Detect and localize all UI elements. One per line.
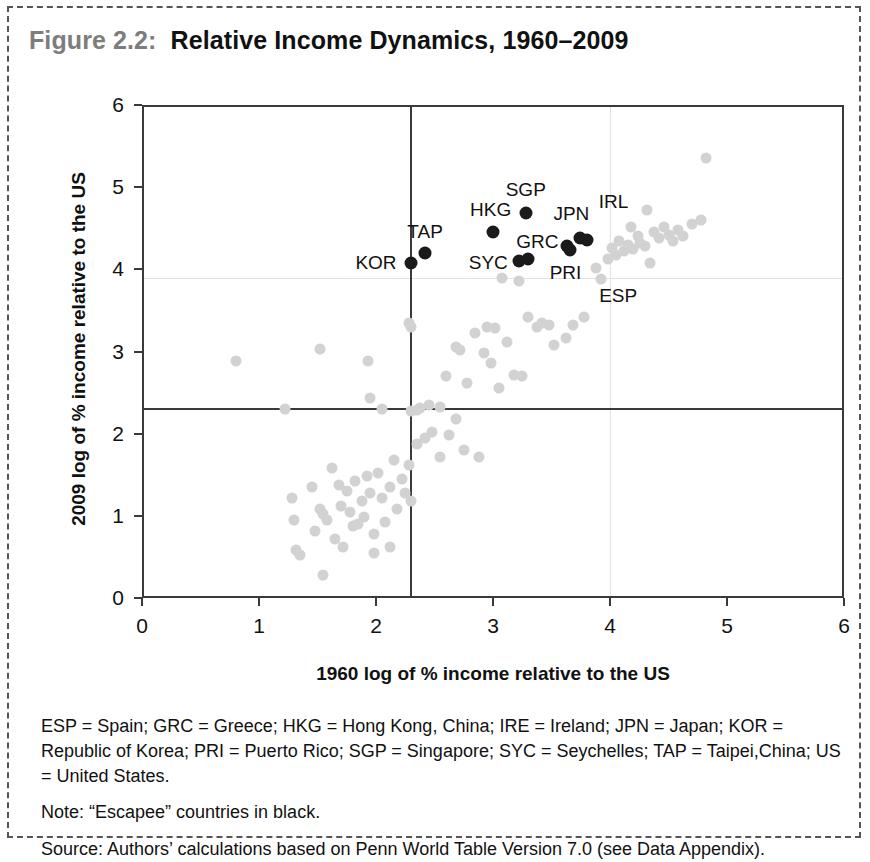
x-tick — [726, 598, 728, 606]
scatter-plot: KORTAPHKGSGPJPNSYCGRCPRIIRLESP0123456012… — [142, 105, 844, 598]
figure-notes: ESP = Spain; GRC = Greece; HKG = Hong Ko… — [41, 714, 841, 862]
figure-container: Figure 2.2:Relative Income Dynamics, 196… — [7, 6, 861, 838]
notes-source: Source: Authors’ calculations based on P… — [41, 837, 841, 862]
x-axis-title: 1960 log of % income relative to the US — [142, 663, 844, 685]
y-tick — [134, 597, 142, 599]
y-tick — [134, 351, 142, 353]
y-tick-label: 3 — [112, 340, 124, 364]
y-tick-label: 6 — [112, 93, 124, 117]
x-tick-label: 1 — [253, 614, 265, 638]
x-tick-label: 6 — [838, 614, 850, 638]
y-tick — [134, 515, 142, 517]
x-tick — [258, 598, 260, 606]
y-axis-title: 2009 log of % income relative to the US — [68, 119, 90, 579]
y-tick — [134, 268, 142, 270]
x-tick — [843, 598, 845, 606]
notes-note: Note: “Escapee” countries in black. — [41, 800, 841, 825]
y-tick — [134, 186, 142, 188]
x-tick-label: 4 — [604, 614, 616, 638]
x-tick-label: 2 — [370, 614, 382, 638]
notes-abbreviations: ESP = Spain; GRC = Greece; HKG = Hong Ko… — [41, 714, 841, 788]
y-tick-label: 1 — [112, 504, 124, 528]
x-tick — [492, 598, 494, 606]
plot-frame — [142, 105, 844, 598]
figure-number: Figure 2.2: — [29, 26, 157, 54]
y-tick-label: 0 — [112, 586, 124, 610]
x-tick — [375, 598, 377, 606]
x-tick-label: 3 — [487, 614, 499, 638]
y-tick-label: 5 — [112, 175, 124, 199]
x-tick — [609, 598, 611, 606]
x-tick — [141, 598, 143, 606]
y-tick-label: 2 — [112, 422, 124, 446]
figure-title-text: Relative Income Dynamics, 1960–2009 — [171, 26, 629, 54]
figure-title: Figure 2.2:Relative Income Dynamics, 196… — [29, 26, 628, 55]
x-tick-label: 0 — [136, 614, 148, 638]
y-tick — [134, 104, 142, 106]
x-tick-label: 5 — [721, 614, 733, 638]
y-tick-label: 4 — [112, 257, 124, 281]
y-tick — [134, 433, 142, 435]
